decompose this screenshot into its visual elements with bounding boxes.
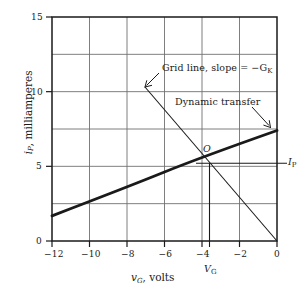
- y-axis-ticks: [46, 17, 52, 241]
- y-tick-label-5: 5: [36, 162, 42, 171]
- vg-label: VG: [204, 264, 216, 276]
- x-tick-label-0: 0: [274, 250, 280, 259]
- x-axis-title: vG, volts: [131, 272, 174, 285]
- figure-dynamic-transfer-characteristic: −12 −10 −8 −6 −4 −2 0 0 5 10 15 vG, volt…: [0, 0, 302, 290]
- y-axis-title-wrapper: iP, milliamperes: [23, 37, 36, 187]
- y-axis-title-symbol: i: [22, 151, 34, 154]
- y-axis-title-subscript: P: [27, 146, 35, 151]
- x-tick-label-minus12: −12: [44, 250, 64, 259]
- x-axis-title-rest: , volts: [143, 271, 175, 283]
- plot-canvas: [0, 0, 302, 290]
- y-tick-label-0: 0: [36, 237, 42, 246]
- operating-point-label: O: [203, 144, 211, 154]
- x-axis-ticks: [52, 241, 277, 247]
- y-tick-label-15: 15: [31, 13, 43, 22]
- dynamic-transfer-leader-shaft: [252, 107, 269, 126]
- x-tick-label-minus4: −4: [196, 250, 210, 259]
- ip-label-subscript: P: [292, 161, 297, 169]
- grid-line-leader-arrow: [145, 73, 159, 87]
- y-axis-title: iP, milliamperes: [23, 37, 36, 187]
- grid-line-annotation-subscript: K: [267, 67, 272, 75]
- x-tick-label-minus10: −10: [81, 250, 101, 259]
- vg-label-subscript: G: [211, 268, 217, 276]
- grid-lines: [52, 17, 277, 241]
- x-tick-label-minus8: −8: [121, 250, 135, 259]
- dynamic-transfer-leader-arrow: [252, 107, 271, 128]
- x-tick-label-minus6: −6: [159, 250, 173, 259]
- grid-line-annotation: Grid line, slope = −GK: [162, 63, 272, 75]
- x-tick-label-minus2: −2: [234, 250, 248, 259]
- grid-line-leader-shaft: [147, 73, 160, 86]
- y-axis-title-rest: , milliamperes: [22, 70, 34, 146]
- grid-line-annotation-text: Grid line, slope = −G: [162, 62, 267, 73]
- vg-label-symbol: V: [204, 263, 211, 274]
- dynamic-transfer-annotation: Dynamic transfer: [175, 97, 260, 107]
- ip-label: IP: [288, 157, 296, 169]
